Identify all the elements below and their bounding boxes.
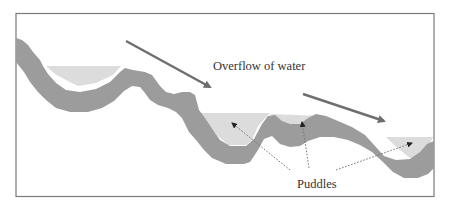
water-puddles xyxy=(46,66,433,160)
overflow-label: Overflow of water xyxy=(213,59,305,74)
overflow-diagram xyxy=(0,0,450,208)
puddles-label: Puddles xyxy=(297,177,337,192)
